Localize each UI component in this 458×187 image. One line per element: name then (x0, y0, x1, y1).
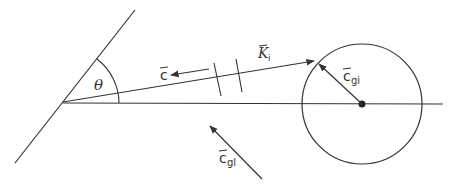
c-arrow (171, 69, 209, 75)
svg-text:c: c (160, 67, 168, 83)
cgi-label: c gi (343, 68, 360, 86)
svg-text:gi: gi (351, 75, 360, 86)
slanted-line (15, 10, 135, 163)
cgl-arrow (210, 126, 262, 179)
k-label: K i (257, 45, 271, 63)
svg-text:c: c (219, 150, 227, 166)
horizontal-axis (63, 103, 443, 104)
svg-text:i: i (268, 53, 271, 63)
diagram-canvas: θ c K i c gi c gl (0, 0, 458, 187)
tick-mark-2 (236, 59, 242, 92)
svg-text:gl: gl (227, 157, 236, 168)
theta-label: θ (94, 76, 103, 94)
c-label: c (160, 67, 168, 83)
cgl-label: c gl (219, 150, 236, 168)
svg-text:c: c (343, 68, 351, 84)
tick-mark-1 (214, 63, 221, 96)
